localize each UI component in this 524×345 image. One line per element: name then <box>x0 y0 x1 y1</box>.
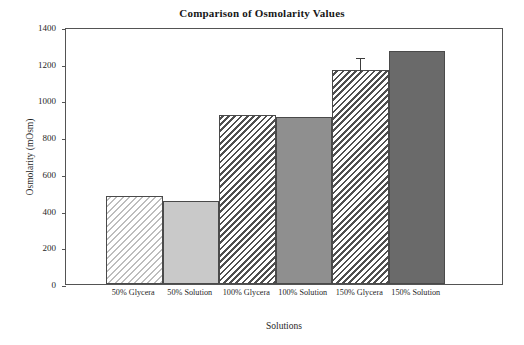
y-tick-mark-3 <box>62 176 66 177</box>
y-tick-label-5: 1000 <box>16 97 56 106</box>
bars-layer <box>66 29 502 284</box>
y-tick-mark-5 <box>62 102 66 103</box>
x-tick-label-5: 150% Solution <box>382 288 451 297</box>
bar-4 <box>332 70 389 284</box>
error-bar-stem <box>360 58 361 72</box>
y-tick-label-4: 800 <box>16 134 56 143</box>
y-tick-label-0: 0 <box>16 281 56 290</box>
y-tick-mark-4 <box>62 139 66 140</box>
error-bar-4 <box>356 58 365 72</box>
y-tick-label-6: 1200 <box>16 61 56 70</box>
bar-2 <box>219 115 276 284</box>
y-tick-mark-7 <box>62 29 66 30</box>
y-tick-mark-0 <box>62 286 66 287</box>
y-axis-label: Osmolarity (mOsm) <box>25 118 35 195</box>
x-axis-label: Solutions <box>65 321 503 331</box>
y-tick-mark-1 <box>62 249 66 250</box>
y-tick-label-1: 200 <box>16 244 56 253</box>
bar-1 <box>163 201 220 284</box>
y-tick-label-3: 600 <box>16 171 56 180</box>
plot-area: 0200400600800100012001400 Osmolarity (mO… <box>65 28 503 285</box>
y-tick-label-2: 400 <box>16 208 56 217</box>
y-tick-mark-2 <box>62 213 66 214</box>
bar-3 <box>276 117 333 284</box>
y-tick-label-7: 1400 <box>16 24 56 33</box>
bar-5 <box>389 51 446 285</box>
bar-0 <box>106 196 163 284</box>
chart-figure: Comparison of Osmolarity Values 02004006… <box>0 0 524 345</box>
chart-title: Comparison of Osmolarity Values <box>0 7 524 19</box>
y-tick-mark-6 <box>62 66 66 67</box>
